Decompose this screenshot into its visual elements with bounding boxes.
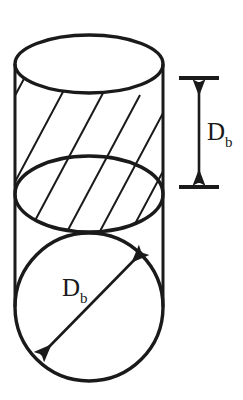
hatch-line — [120, 102, 200, 252]
diameter-arrow — [41, 252, 142, 355]
diameter-label-symbol: D — [62, 274, 80, 301]
top-ellipse — [15, 35, 163, 93]
hatch-line — [0, 30, 50, 180]
height-label-symbol: D — [207, 118, 225, 145]
cylinder-walls — [15, 64, 163, 307]
diagram-canvas: Db Db — [0, 0, 243, 400]
hatch-line — [60, 95, 140, 245]
diameter-label: Db — [62, 274, 88, 306]
mid-ellipse — [15, 156, 163, 232]
diameter-label-subscript: b — [80, 290, 88, 306]
cylindrical-bed-diagram: Db Db — [0, 0, 243, 400]
height-label: Db — [207, 118, 233, 150]
hatch-line — [0, 60, 80, 210]
height-label-subscript: b — [225, 134, 233, 150]
